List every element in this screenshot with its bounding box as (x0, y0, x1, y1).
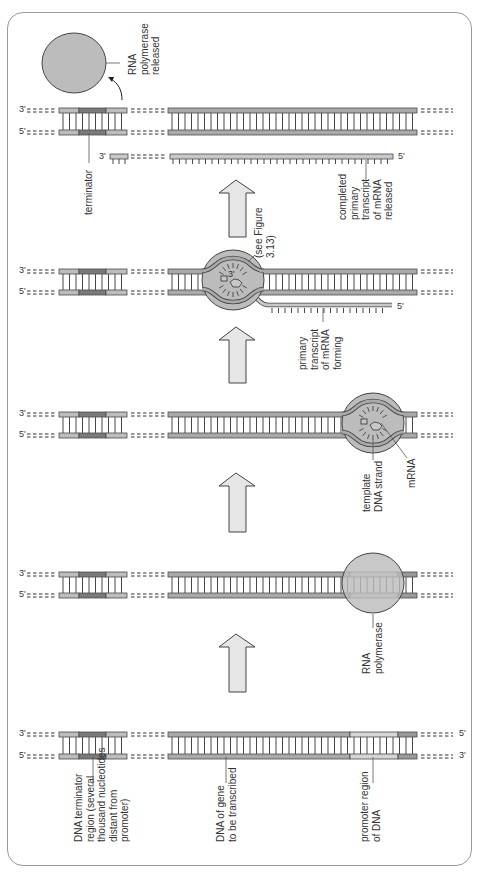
mrna-label: mRNA (406, 458, 417, 488)
terminator-core (79, 412, 106, 417)
terminator-flank (106, 412, 127, 417)
end-label-5prime: 5' (19, 750, 26, 760)
terminator-core (79, 269, 106, 274)
release-arrowhead-icon (108, 77, 114, 82)
label-line: region (several (85, 776, 96, 842)
terminator-flank (59, 593, 79, 598)
terminator-flank (106, 593, 127, 598)
label-line: DNA terminator (73, 773, 84, 842)
terminator-flank (106, 433, 127, 438)
mrna-3prime-label: 3' (228, 269, 235, 279)
end-label-5prime: 5' (19, 286, 26, 296)
template-dna-strand-label: templateDNA strand (361, 461, 384, 512)
mrna-5prime-label: 5' (397, 301, 404, 311)
label-line: (see Figure (253, 207, 264, 258)
promoter-region-label: promoter regionof DNA (359, 771, 382, 842)
terminator-core (79, 433, 106, 438)
gene-strand (168, 593, 350, 598)
label-line: RNA (361, 653, 372, 674)
label-line: of DNA (371, 809, 382, 842)
label-line: mRNA (406, 458, 417, 488)
label-line: polymerase (373, 622, 384, 674)
label-line: DNA of gene (215, 785, 226, 842)
rna-polymerase-released-label: RNApolymerasereleased (127, 23, 161, 75)
promoter-strand (350, 754, 398, 759)
step-arrow-3-to-4 (219, 327, 255, 383)
label-line: terminator (83, 169, 94, 215)
promoter-strand (350, 732, 398, 737)
label-line: promoter) (119, 799, 130, 842)
end-label-5prime: 5' (19, 429, 26, 439)
label-line: transcript (360, 179, 371, 220)
label-line: released (150, 37, 161, 75)
label-line: released (383, 182, 394, 220)
released-rna-polymerase-icon (42, 33, 106, 93)
gene-strand (168, 572, 350, 577)
terminator-flank (59, 754, 79, 759)
gene-strand (168, 754, 350, 759)
gene-strand (168, 108, 417, 113)
dna-terminator-region-label: DNA terminatorregion (severalthousand nu… (73, 747, 130, 842)
promoter-flank (398, 754, 417, 759)
terminator-flank (106, 754, 127, 759)
terminator-flank (59, 732, 79, 737)
release-arrow-icon (111, 79, 122, 100)
terminator-flank (59, 130, 79, 135)
label-line: template (361, 473, 372, 512)
end-label-5prime: 5' (19, 589, 26, 599)
terminator-core (79, 732, 106, 737)
gene-strand (168, 732, 350, 737)
rna-polymerase-icon (342, 553, 404, 613)
transcription-diagram: 3'5'5'3'DNA terminatorregion (severaltho… (0, 0, 480, 873)
terminator-core (79, 108, 106, 113)
released-rna-tail (110, 154, 128, 159)
primary-transcript-forming-label: primarytranscriptof mRNAforming (297, 329, 343, 370)
terminator-flank (59, 290, 79, 295)
terminator-label: terminator (83, 169, 94, 215)
end-label-3prime: 3' (19, 568, 26, 578)
label-line: thousand nucleotides (96, 747, 107, 842)
gene-strand (168, 130, 417, 135)
promoter-flank (398, 732, 417, 737)
end-label-3prime: 3' (19, 728, 26, 738)
nucleotide-icon (361, 419, 367, 424)
terminator-core (79, 593, 106, 598)
label-line: completed (337, 174, 348, 220)
label-line: promoter region (359, 771, 370, 842)
completed-transcript-label: completedprimarytranscriptof mRNArelease… (337, 174, 394, 220)
end-label-right-bot: 3' (459, 750, 466, 760)
terminator-core (79, 290, 106, 295)
end-label-right-top: 5' (459, 728, 466, 738)
label-line: polymerase (139, 23, 150, 75)
step-arrow-4-to-5 (219, 180, 255, 237)
terminator-flank (106, 108, 127, 113)
rna-3prime-label: 3' (99, 151, 106, 161)
end-label-3prime: 3' (19, 265, 26, 275)
rna-5prime-label: 5' (398, 151, 405, 161)
terminator-flank (106, 290, 127, 295)
step-arrow-1-to-2 (219, 634, 255, 692)
label-line: 3.13) (265, 235, 276, 258)
label-line: DNA strand (373, 461, 384, 512)
terminator-flank (59, 433, 79, 438)
nucleotide-icon (221, 276, 227, 281)
terminator-core (79, 130, 106, 135)
terminator-flank (106, 572, 127, 577)
terminator-flank (59, 108, 79, 113)
terminator-flank (106, 732, 127, 737)
end-label-3prime: 3' (19, 104, 26, 114)
label-line: to be transcribed (227, 768, 238, 843)
label-line: primary (349, 187, 360, 220)
terminator-flank (59, 412, 79, 417)
label-line: of mRNA (372, 179, 383, 220)
label-line: RNA (127, 54, 138, 75)
released-mrna-strand (170, 154, 393, 159)
terminator-flank (106, 269, 127, 274)
terminator-flank (106, 130, 127, 135)
end-label-5prime: 5' (19, 126, 26, 136)
label-line: transcript (309, 329, 320, 370)
terminator-flank (59, 572, 79, 577)
step-arrow-2-to-3 (219, 473, 255, 532)
label-line: forming (332, 337, 343, 370)
see-figure-label: (see Figure3.13) (253, 207, 276, 258)
